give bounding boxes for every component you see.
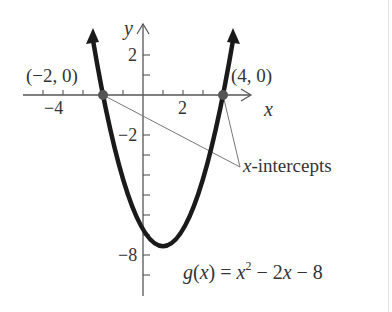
point-neg2-0 — [98, 90, 108, 100]
y-axis-label: y — [122, 17, 133, 40]
x-axis-label: x — [263, 98, 273, 120]
x-tick-label-2: 2 — [178, 98, 187, 118]
curve-arrow-left-icon — [86, 28, 99, 44]
point-label-left: (−2, 0) — [26, 65, 78, 87]
point-label-right: (4, 0) — [231, 65, 272, 87]
y-axis-ticks — [143, 55, 150, 275]
y-tick-label-2: 2 — [128, 45, 137, 65]
x-tick-label-neg4: −4 — [44, 98, 63, 118]
y-tick-label-neg2: −2 — [118, 125, 137, 145]
parabola-graph: y x 2 −4 2 −2 −8 (−2, 0) (4, 0) x-interc… — [0, 0, 392, 312]
curve-arrow-right-icon — [227, 28, 240, 44]
function-label: g(x) = x2 − 2x − 8 — [183, 259, 323, 284]
x-intercepts-annotation: x-intercepts — [242, 155, 332, 176]
y-tick-label-neg8: −8 — [118, 245, 137, 265]
parabola-curve — [93, 37, 234, 246]
point-4-0 — [218, 90, 228, 100]
y-axis — [137, 24, 150, 296]
